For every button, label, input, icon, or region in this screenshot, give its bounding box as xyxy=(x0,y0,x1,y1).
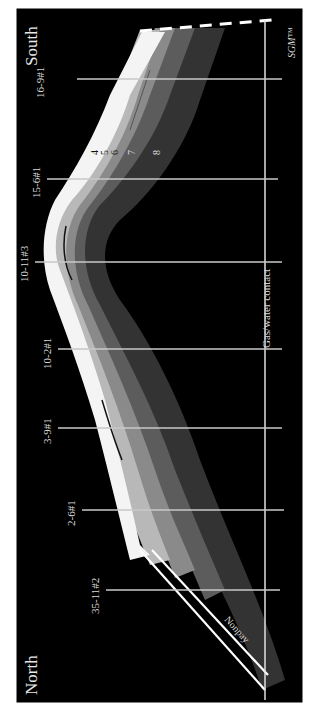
well-label: 2-6#1 xyxy=(65,500,77,526)
cross-section-diagram: South North 16-9#1 15-6#1 10-11#3 10-2#1… xyxy=(0,0,312,719)
layer-number: 6 xyxy=(109,150,120,155)
well-label: 15-6#1 xyxy=(30,167,42,198)
well-label: 3-9#1 xyxy=(41,418,53,444)
layer-number: 7 xyxy=(126,150,137,155)
direction-label-north: North xyxy=(22,655,41,695)
well-label: 10-2#1 xyxy=(41,338,53,369)
gas-water-contact-label: Gas/water contact xyxy=(260,269,272,348)
well-label: 10-11#3 xyxy=(18,245,30,282)
layer-number: 8 xyxy=(151,150,162,155)
direction-label-south: South xyxy=(22,26,41,66)
well-label: 16-9#1 xyxy=(34,67,46,98)
well-label: 35-11#2 xyxy=(89,578,101,614)
sgm-watermark: SGM™ xyxy=(286,27,297,58)
